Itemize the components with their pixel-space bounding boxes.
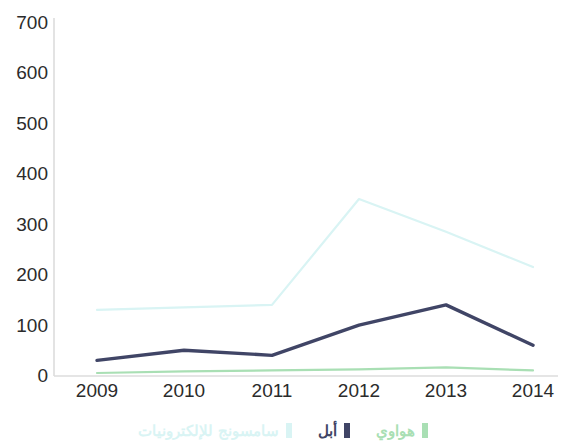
y-tick-label: 300	[4, 215, 48, 234]
x-tick-label: 2012	[329, 381, 389, 401]
series-line	[97, 367, 533, 373]
legend-label-samsung: سامسونج للإلكترونيات	[138, 422, 278, 439]
legend-swatch-apple	[344, 423, 350, 438]
plot-svg	[0, 0, 566, 400]
chart-legend: سامسونج للإلكترونيات أبل هواوي	[0, 417, 566, 443]
x-axis-tick-labels: 2009 2010 2011 2012 2013 2014	[0, 381, 566, 407]
y-tick-label: 200	[4, 265, 48, 284]
series-layer	[97, 199, 533, 373]
legend-item-huawei[interactable]: هواوي	[376, 422, 428, 439]
x-tick-label: 2011	[242, 381, 302, 401]
y-tick-label: 400	[4, 164, 48, 183]
x-tick-label: 2010	[154, 381, 214, 401]
x-tick-label: 2013	[416, 381, 476, 401]
y-tick-label: 500	[4, 114, 48, 133]
legend-label-apple: أبل	[318, 422, 337, 439]
series-line	[97, 305, 533, 360]
legend-item-samsung[interactable]: سامسونج للإلكترونيات	[138, 422, 291, 439]
legend-item-apple[interactable]: أبل	[318, 422, 350, 439]
legend-label-huawei: هواوي	[376, 422, 415, 439]
line-chart: 700 600 500 400 300 200 100 0 2009 2010 …	[0, 0, 566, 443]
y-tick-label: 600	[4, 63, 48, 82]
plot-area: 700 600 500 400 300 200 100 0	[0, 0, 566, 400]
y-tick-label: 100	[4, 316, 48, 335]
y-axis-tick-labels: 700 600 500 400 300 200 100 0	[0, 0, 48, 400]
legend-swatch-huawei	[422, 423, 428, 438]
x-tick-label: 2009	[67, 381, 127, 401]
x-tick-label: 2014	[503, 381, 563, 401]
series-line	[97, 199, 533, 310]
y-tick-label: 700	[4, 13, 48, 32]
legend-swatch-samsung	[286, 423, 292, 438]
